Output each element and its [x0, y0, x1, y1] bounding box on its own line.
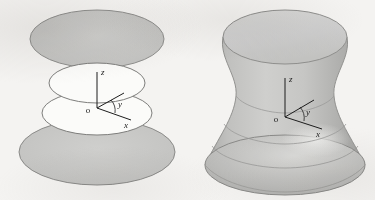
cross-sections-panel: z o y x — [19, 10, 175, 185]
top-disc — [30, 10, 164, 68]
hyperboloid-surface-panel: z o y x — [205, 10, 365, 195]
x-axis-label-right: x — [315, 129, 320, 139]
x-axis-label-left: x — [123, 120, 128, 130]
z-axis-label-left: z — [100, 67, 105, 77]
z-axis-label-right: z — [288, 74, 293, 84]
top-rim-disc — [223, 10, 347, 64]
origin-label-left: o — [86, 105, 91, 115]
figure-illustration: z o y x z o y — [0, 0, 375, 200]
y-axis-label-right: y — [305, 107, 310, 117]
origin-label-right: o — [274, 114, 279, 124]
y-axis-label-left: y — [117, 99, 122, 109]
